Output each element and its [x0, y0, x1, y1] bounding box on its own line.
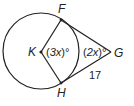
point-f-dot	[60, 19, 63, 22]
geometry-diagram: F H K G (3x)° (2x)° 17	[0, 0, 134, 106]
label-f: F	[58, 2, 66, 16]
label-k: K	[28, 45, 37, 59]
point-k-dot	[39, 50, 42, 53]
label-h: H	[57, 86, 66, 100]
label-g: G	[114, 46, 123, 60]
segment-gh-length: 17	[89, 69, 101, 81]
point-h-dot	[60, 82, 63, 85]
angle-g-label: (2x)°	[83, 46, 106, 58]
angle-k-label: (3x)°	[46, 46, 69, 58]
